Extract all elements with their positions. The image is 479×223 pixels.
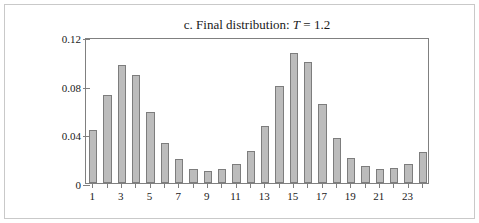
- x-axis-label: 21: [373, 190, 384, 202]
- x-axis-tick: [365, 184, 366, 188]
- x-axis-tick: [250, 184, 251, 188]
- x-axis-tick: [336, 184, 337, 188]
- bar: [247, 151, 256, 183]
- x-axis-tick: [178, 184, 179, 188]
- x-axis-tick: [107, 184, 108, 188]
- chart-title-prefix: c. Final distribution:: [184, 17, 293, 32]
- x-axis-tick: [92, 184, 93, 188]
- bar: [261, 126, 270, 183]
- bar: [290, 53, 299, 183]
- y-axis-label: 0.04: [62, 131, 81, 142]
- bar: [161, 143, 170, 183]
- x-axis-label: 15: [287, 190, 298, 202]
- x-axis-tick: [307, 184, 308, 188]
- bar-series: [86, 39, 428, 183]
- bar: [89, 130, 98, 182]
- figure-root: c. Final distribution: T = 1.2 00.040.08…: [0, 0, 479, 223]
- x-axis-tick: [150, 184, 151, 188]
- bar: [146, 112, 155, 182]
- x-axis-label: 1: [89, 190, 95, 202]
- bar: [376, 169, 385, 182]
- x-axis: 1357911131517192123: [85, 184, 429, 214]
- x-axis-label: 9: [204, 190, 210, 202]
- bar: [361, 166, 370, 182]
- bar: [189, 169, 198, 182]
- x-axis-tick: [236, 184, 237, 188]
- x-axis-label: 13: [259, 190, 270, 202]
- x-axis-tick: [293, 184, 294, 188]
- bar: [232, 164, 241, 182]
- bar: [347, 158, 356, 182]
- chart-title-variable: T: [293, 17, 300, 32]
- bar: [118, 65, 127, 183]
- x-axis-tick: [264, 184, 265, 188]
- x-axis-tick: [193, 184, 194, 188]
- bar: [419, 152, 428, 182]
- x-axis-tick: [221, 184, 222, 188]
- bar: [275, 86, 284, 183]
- bar: [404, 164, 413, 183]
- bar: [304, 62, 313, 182]
- x-axis-tick: [408, 184, 409, 188]
- bar: [318, 104, 327, 183]
- bar: [218, 169, 227, 182]
- x-axis-label: 23: [402, 190, 413, 202]
- x-axis-tick: [393, 184, 394, 188]
- bar: [204, 171, 213, 183]
- chart-title: c. Final distribution: T = 1.2: [85, 17, 429, 33]
- y-axis-label: 0.08: [62, 82, 81, 93]
- x-axis-tick: [279, 184, 280, 188]
- chart-title-equals: = 1.2: [303, 17, 330, 32]
- plot-area: 00.040.080.12: [85, 38, 429, 184]
- x-axis-tick: [121, 184, 122, 188]
- x-axis-label: 3: [118, 190, 124, 202]
- x-axis-label: 7: [175, 190, 181, 202]
- x-axis-label: 19: [345, 190, 356, 202]
- x-axis-tick: [322, 184, 323, 188]
- bar: [333, 138, 342, 183]
- x-axis-tick: [422, 184, 423, 188]
- x-axis-tick: [164, 184, 165, 188]
- x-axis-tick: [350, 184, 351, 188]
- bar: [390, 168, 399, 183]
- x-axis-tick: [207, 184, 208, 188]
- bar: [175, 159, 184, 182]
- bar: [103, 95, 112, 182]
- x-axis-tick: [379, 184, 380, 188]
- x-axis-label: 5: [147, 190, 153, 202]
- x-axis-tick: [135, 184, 136, 188]
- y-axis-label: 0.12: [62, 34, 81, 45]
- x-axis-label: 11: [230, 190, 241, 202]
- bar: [132, 75, 141, 183]
- y-axis-label: 0: [76, 179, 82, 190]
- x-axis-label: 17: [316, 190, 327, 202]
